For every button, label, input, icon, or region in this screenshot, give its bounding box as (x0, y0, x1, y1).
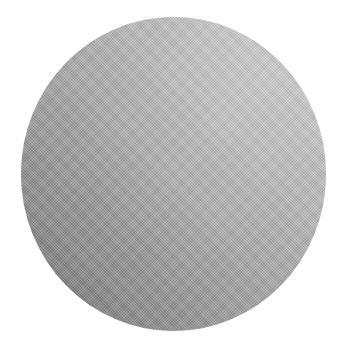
disc-highlight (21, 17, 326, 331)
image-subject: round gray woven mesh disc (0, 0, 1, 1)
mesh-disc (21, 17, 326, 331)
image-canvas: round gray woven mesh disc (0, 0, 346, 346)
